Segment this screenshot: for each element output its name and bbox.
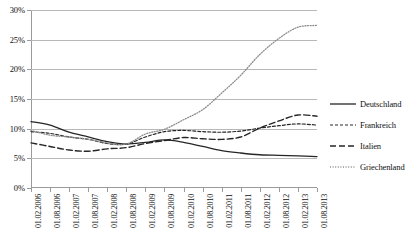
legend-label: Italien xyxy=(360,141,381,151)
x-tick-mark xyxy=(203,188,204,192)
y-axis-label: 25% xyxy=(10,35,25,45)
legend-swatch-icon xyxy=(330,120,356,130)
y-axis-label: 15% xyxy=(10,94,25,104)
x-tick-mark xyxy=(69,188,70,192)
x-tick-mark xyxy=(260,188,261,192)
x-axis-label: 01.02.2009 xyxy=(148,194,157,228)
x-axis-label: 01.08.2013 xyxy=(320,194,329,228)
legend-swatch-icon xyxy=(330,162,356,172)
x-axis-label: 01.08.2012 xyxy=(282,194,291,228)
x-axis-label: 01.08.2006 xyxy=(53,194,62,228)
legend: DeutschlandFrankreichItalienGriechenland xyxy=(330,93,417,177)
x-axis-label: 01.02.2013 xyxy=(301,194,310,228)
x-tick-mark xyxy=(164,188,165,192)
x-axis-label: 01.02.2012 xyxy=(263,194,272,228)
x-tick-mark xyxy=(298,188,299,192)
y-axis-label: 30% xyxy=(10,5,25,15)
x-axis-label: 01.02.2007 xyxy=(72,194,81,228)
x-tick-mark xyxy=(222,188,223,192)
x-tick-mark xyxy=(184,188,185,192)
series-line-frankreich xyxy=(31,124,317,145)
legend-swatch-icon xyxy=(330,141,356,151)
y-axis-label: 10% xyxy=(10,124,25,134)
legend-label: Deutschland xyxy=(360,99,401,109)
x-axis-label: 01.08.2011 xyxy=(244,194,253,228)
legend-item-deutschland[interactable]: Deutschland xyxy=(330,93,417,114)
x-tick-mark xyxy=(31,188,32,192)
x-tick-mark xyxy=(145,188,146,192)
legend-item-italien[interactable]: Italien xyxy=(330,135,417,156)
x-tick-mark xyxy=(317,188,318,192)
y-axis-label: 20% xyxy=(10,64,25,74)
x-tick-mark xyxy=(107,188,108,192)
y-axis-label: 5% xyxy=(14,153,25,163)
x-tick-mark xyxy=(279,188,280,192)
series-layer xyxy=(31,10,317,188)
x-axis-label: 01.02.2008 xyxy=(110,194,119,228)
x-tick-mark xyxy=(241,188,242,192)
x-tick-mark xyxy=(126,188,127,192)
x-tick-mark xyxy=(88,188,89,192)
x-axis-label: 01.08.2008 xyxy=(129,194,138,228)
legend-item-griechenland[interactable]: Griechenland xyxy=(330,156,417,177)
x-tick-mark xyxy=(50,188,51,192)
line-chart: 0%5%10%15%20%25%30% 01.02.200601.08.2006… xyxy=(0,0,417,247)
x-axis-label: 01.08.2009 xyxy=(167,194,176,228)
chart-title xyxy=(0,0,330,2)
x-axis-label: 01.02.2006 xyxy=(34,194,43,228)
x-axis-label: 01.02.2010 xyxy=(187,194,196,228)
legend-item-frankreich[interactable]: Frankreich xyxy=(330,114,417,135)
x-axis-label: 01.02.2011 xyxy=(225,194,234,228)
legend-label: Griechenland xyxy=(360,162,405,172)
y-axis-label: 0% xyxy=(14,183,25,193)
x-axis-label: 01.08.2010 xyxy=(206,194,215,228)
legend-label: Frankreich xyxy=(360,120,396,130)
plot-area: 0%5%10%15%20%25%30% 01.02.200601.08.2006… xyxy=(31,10,317,188)
legend-swatch-icon xyxy=(330,99,356,109)
x-axis-label: 01.08.2007 xyxy=(91,194,100,228)
